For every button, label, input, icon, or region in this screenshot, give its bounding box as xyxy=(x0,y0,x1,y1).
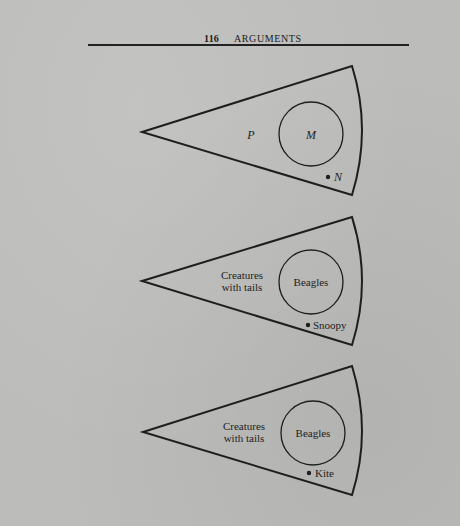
outer-set-label-line1: Creatures xyxy=(223,420,265,432)
euler-diagrams: P M N Creatures with tails Beagles Snoop… xyxy=(0,0,460,526)
point-label: Kite xyxy=(315,467,334,479)
inner-set-label: Beagles xyxy=(296,427,331,439)
inner-set-label: M xyxy=(305,128,317,142)
diagram-2: Creatures with tails Beagles Snoopy xyxy=(142,217,362,345)
point-dot xyxy=(326,175,330,179)
inner-set-label: Beagles xyxy=(294,276,329,288)
outer-set-label-line1: Creatures xyxy=(221,269,263,281)
point-dot xyxy=(307,471,311,475)
point-dot xyxy=(306,323,310,327)
diagram-1: P M N xyxy=(142,66,362,195)
point-label: Snoopy xyxy=(313,319,347,331)
outer-set-label-line2: with tails xyxy=(222,281,263,293)
outer-set-label-line2: with tails xyxy=(224,432,265,444)
point-label: N xyxy=(333,170,343,184)
outer-set-label: P xyxy=(246,128,255,142)
diagram-3: Creatures with tails Beagles Kite xyxy=(143,366,362,495)
